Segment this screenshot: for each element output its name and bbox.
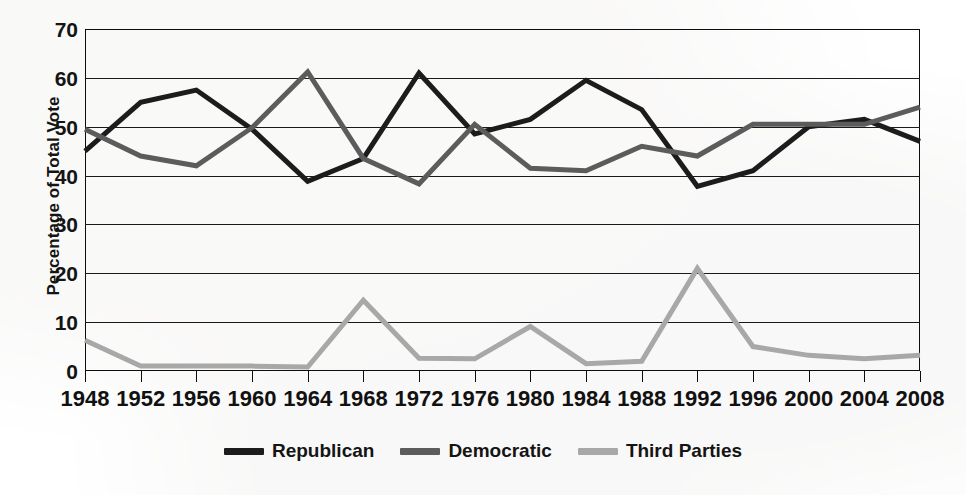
x-tick-mark (196, 371, 197, 382)
x-tick-mark (308, 371, 309, 382)
series-line-republican (85, 73, 920, 186)
x-tick-mark (85, 371, 86, 382)
x-tick-mark (920, 371, 921, 382)
line-chart-figure: Percentage of Total Vote 010203040506070… (0, 0, 966, 495)
legend-swatch (578, 448, 618, 455)
x-tick-label: 1964 (283, 386, 332, 411)
legend-label: Third Parties (626, 440, 742, 462)
x-tick-label: 1996 (729, 386, 778, 411)
x-tick-label: 1992 (673, 386, 722, 411)
x-tick-label: 1980 (506, 386, 555, 411)
x-tick-label: 1960 (228, 386, 277, 411)
legend-item: Third Parties (578, 440, 742, 462)
y-tick-label: 20 (26, 263, 78, 284)
y-axis-tick-labels: 010203040506070 (26, 0, 78, 495)
legend-item: Republican (224, 440, 374, 462)
series-lines (85, 29, 920, 371)
y-tick-label: 50 (26, 116, 78, 137)
x-tick-mark (697, 371, 698, 382)
x-tick-label: 1984 (562, 386, 611, 411)
legend-label: Republican (272, 440, 374, 462)
x-tick-mark (475, 371, 476, 382)
legend-swatch (224, 448, 264, 455)
x-tick-mark (586, 371, 587, 382)
x-tick-mark (252, 371, 253, 382)
x-tick-label: 2004 (840, 386, 889, 411)
x-tick-label: 1988 (617, 386, 666, 411)
y-tick-label: 70 (26, 19, 78, 40)
x-tick-mark (419, 371, 420, 382)
y-tick-label: 0 (26, 361, 78, 382)
x-tick-mark (141, 371, 142, 382)
x-axis-tick-marks (85, 371, 920, 383)
chart-legend: RepublicanDemocraticThird Parties (0, 440, 966, 462)
x-axis-tick-labels: 1948195219561960196419681972197619801984… (0, 386, 966, 420)
legend-label: Democratic (448, 440, 552, 462)
series-line-third-parties (85, 268, 920, 367)
y-tick-label: 10 (26, 312, 78, 333)
y-tick-label: 30 (26, 214, 78, 235)
plot-area (85, 29, 920, 371)
legend-item: Democratic (400, 440, 552, 462)
x-tick-label: 1976 (450, 386, 499, 411)
y-tick-label: 40 (26, 165, 78, 186)
x-tick-label: 1948 (61, 386, 110, 411)
x-tick-mark (363, 371, 364, 382)
x-tick-mark (642, 371, 643, 382)
x-tick-mark (809, 371, 810, 382)
legend-swatch (400, 448, 440, 455)
x-tick-mark (753, 371, 754, 382)
x-tick-label: 1956 (172, 386, 221, 411)
x-tick-mark (530, 371, 531, 382)
x-tick-mark (864, 371, 865, 382)
x-tick-label: 1952 (116, 386, 165, 411)
x-tick-label: 1972 (395, 386, 444, 411)
y-tick-label: 60 (26, 67, 78, 88)
x-tick-label: 2008 (896, 386, 945, 411)
x-tick-label: 1968 (339, 386, 388, 411)
x-tick-label: 2000 (784, 386, 833, 411)
